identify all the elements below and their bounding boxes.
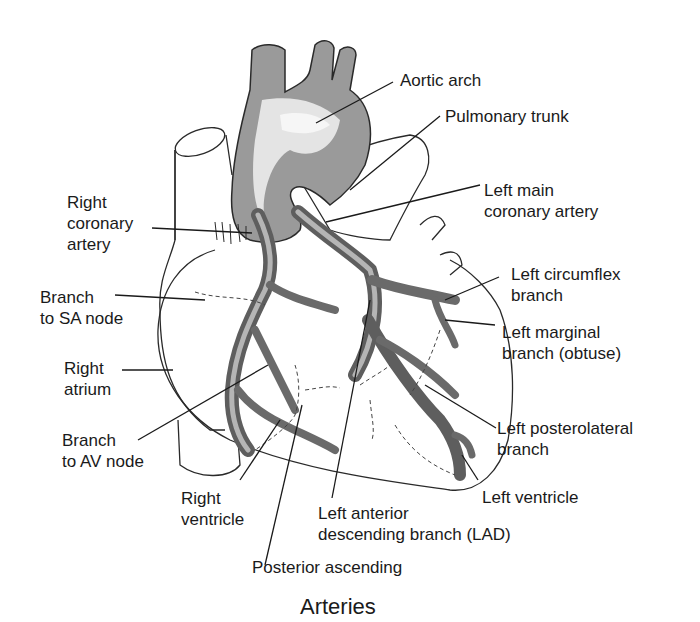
label-right-atrium: Right atrium (64, 358, 111, 400)
coronary-arteries-diagram: Aortic arch Pulmonary trunk Left main co… (0, 0, 700, 622)
right-atrium-outline (160, 150, 225, 430)
label-branch-to-sa-node: Branch to SA node (40, 287, 123, 329)
diagram-caption: Arteries (300, 594, 376, 620)
label-left-posterolateral-branch: Left posterolateral branch (497, 418, 633, 460)
label-lad: Left anterior descending branch (LAD) (318, 503, 511, 545)
label-branch-to-av-node: Branch to AV node (62, 430, 144, 472)
label-aortic-arch: Aortic arch (400, 70, 481, 91)
label-left-circumflex-branch: Left circumflex branch (511, 264, 621, 306)
label-left-marginal-branch: Left marginal branch (obtuse) (502, 322, 621, 364)
label-right-ventricle: Right ventricle (181, 488, 244, 530)
circumflex-branch (372, 280, 455, 300)
label-pulmonary-trunk: Pulmonary trunk (445, 106, 569, 127)
label-posterior-ascending: Posterior ascending (252, 557, 402, 578)
label-left-main-coronary-artery: Left main coronary artery (484, 180, 598, 222)
label-right-coronary-artery: Right coronary artery (67, 192, 133, 255)
